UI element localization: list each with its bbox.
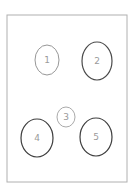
- node-label: 1: [44, 55, 50, 65]
- diagram-canvas: 12345: [0, 0, 135, 190]
- node-5: 5: [80, 118, 112, 156]
- node-label: 4: [34, 133, 40, 143]
- node-label: 5: [93, 132, 99, 142]
- node-3: 3: [57, 107, 75, 127]
- frame-rectangle: [7, 15, 127, 182]
- node-4: 4: [21, 119, 53, 157]
- node-label: 2: [94, 56, 100, 66]
- node-2: 2: [82, 42, 112, 80]
- node-1: 1: [35, 45, 59, 75]
- node-label: 3: [63, 112, 69, 122]
